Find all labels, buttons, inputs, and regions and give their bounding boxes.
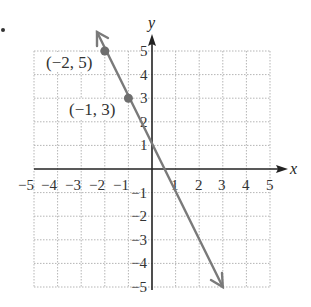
x-axis-label: x xyxy=(289,160,297,177)
y-tick: −3 xyxy=(131,232,147,248)
y-tick: 4 xyxy=(140,67,148,83)
x-tick: 2 xyxy=(195,177,203,193)
x-tick: 4 xyxy=(242,177,250,193)
x-tick: 5 xyxy=(266,177,274,193)
y-axis-label: y xyxy=(146,14,156,32)
line-series xyxy=(97,32,223,287)
y-tick: 3 xyxy=(140,90,148,106)
point-label-2: (−1, 3) xyxy=(69,100,115,119)
y-tick: 1 xyxy=(140,137,148,153)
y-tick: −2 xyxy=(131,208,147,224)
problem-marker-dot xyxy=(1,28,5,32)
x-tick: −4 xyxy=(41,177,57,193)
y-tick: 5 xyxy=(140,43,148,59)
axes xyxy=(34,42,280,290)
x-tick: −2 xyxy=(89,177,105,193)
y-tick: −5 xyxy=(131,279,147,295)
y-tick: −4 xyxy=(131,255,147,271)
x-tick: −5 xyxy=(18,177,34,193)
point-label-1: (−2, 5) xyxy=(46,53,92,72)
point-neg1-3 xyxy=(124,94,133,103)
x-tick: −3 xyxy=(65,177,81,193)
coordinate-plane: x y −5 −4 −3 −2 −1 1 2 3 4 5 5 4 3 2 1 −… xyxy=(0,0,311,307)
x-tick: 3 xyxy=(218,177,226,193)
point-neg2-5 xyxy=(100,47,109,56)
x-tick: −1 xyxy=(113,177,129,193)
y-tick: −1 xyxy=(131,185,147,201)
